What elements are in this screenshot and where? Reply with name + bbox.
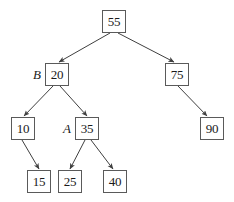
tree-edge bbox=[60, 86, 87, 116]
tree-node-90: 90 bbox=[200, 117, 224, 140]
tree-node-55: 55 bbox=[102, 10, 126, 33]
tree-edge bbox=[22, 140, 39, 169]
node-annotation-A: A bbox=[63, 122, 71, 135]
node-annotation-B: B bbox=[33, 68, 41, 81]
tree-edges bbox=[22, 33, 207, 169]
tree-node-75: 75 bbox=[165, 63, 189, 86]
tree-edge bbox=[59, 33, 110, 62]
tree-edge bbox=[178, 86, 207, 116]
tree-node-40: 40 bbox=[103, 170, 127, 193]
tree-node-20: 20 bbox=[45, 63, 69, 86]
tree-edge bbox=[70, 140, 85, 169]
tree-edge bbox=[24, 86, 53, 116]
tree-edge bbox=[91, 140, 113, 169]
tree-edge bbox=[118, 33, 174, 62]
tree-node-15: 15 bbox=[27, 170, 51, 193]
binary-tree-diagram: 5520B751035A90152540 bbox=[0, 0, 234, 202]
tree-node-25: 25 bbox=[58, 170, 82, 193]
tree-node-10: 10 bbox=[11, 117, 35, 140]
tree-node-35: 35 bbox=[75, 117, 99, 140]
